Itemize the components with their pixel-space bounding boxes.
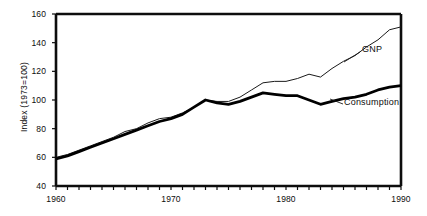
y-tick-label: 60 [20, 152, 46, 162]
series-line-gnp [56, 27, 401, 157]
x-tick-label: 1980 [266, 194, 306, 204]
y-tick-label: 140 [20, 38, 46, 48]
y-tick-label: 100 [20, 95, 46, 105]
line-chart: Index (1973=100) 406080100120140160 1960… [0, 0, 427, 216]
x-tick-label: 1990 [381, 194, 421, 204]
y-tick-label: 160 [20, 9, 46, 19]
y-tick-label: 120 [20, 66, 46, 76]
x-tick-label: 1960 [36, 194, 76, 204]
y-tick-label: 40 [20, 181, 46, 191]
chart-series [56, 27, 401, 159]
x-tick-label: 1970 [151, 194, 191, 204]
chart-plot-area [0, 0, 427, 216]
y-tick-label: 80 [20, 124, 46, 134]
series-label-gnp: GNP [362, 44, 382, 54]
leader-line-gnp [344, 52, 360, 62]
series-label-consumption: Consumption [344, 97, 399, 107]
